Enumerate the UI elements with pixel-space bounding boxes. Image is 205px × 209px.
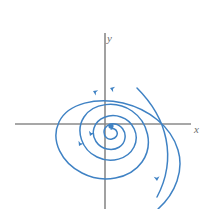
- trajectory-lead-in-arc: [137, 88, 168, 197]
- equilibrium-point-dot: [108, 123, 113, 128]
- trajectory-spiral-curve: [56, 101, 180, 209]
- trajectory-group: [56, 85, 180, 209]
- arrow-outer-right: [154, 176, 160, 181]
- phase-portrait-figure: x y: [0, 0, 205, 209]
- y-axis-label: y: [106, 32, 112, 44]
- x-axis-label: x: [193, 123, 199, 135]
- arrow-upper-inner: [109, 85, 115, 92]
- phase-portrait-canvas: x y: [0, 0, 205, 209]
- arrow-mid-upper: [92, 88, 98, 95]
- axes-group: x y: [15, 32, 199, 209]
